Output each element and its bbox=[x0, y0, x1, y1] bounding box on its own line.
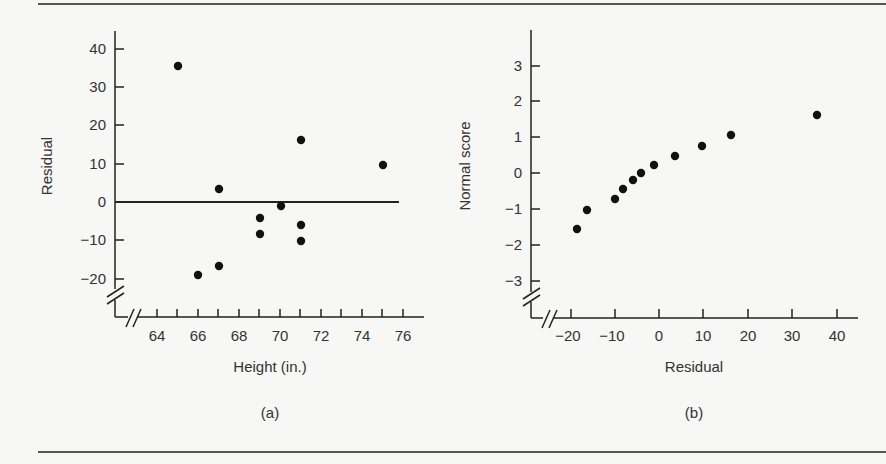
x-tick-label: 68 bbox=[231, 327, 248, 344]
x-tick-label: 20 bbox=[740, 327, 757, 344]
figure: 40 30 20 10 0 −10 −20 64 66 68 70 72 74 … bbox=[0, 0, 886, 464]
x-tick-label: 40 bbox=[829, 327, 846, 344]
x-tick-label: 70 bbox=[272, 327, 289, 344]
y-tick-label: 20 bbox=[89, 116, 106, 133]
data-point bbox=[297, 237, 305, 245]
panel-b: 3 2 1 0 −1 −2 −3 −20 −10 0 10 20 30 40 R… bbox=[456, 30, 858, 421]
y-tick-labels-b: 3 2 1 0 −1 −2 −3 bbox=[505, 57, 522, 289]
data-point bbox=[813, 111, 821, 119]
data-point bbox=[297, 221, 305, 229]
x-tick-label: 74 bbox=[354, 327, 371, 344]
y-tick-label: 2 bbox=[514, 92, 522, 109]
x-tick-labels-a: 64 66 68 70 72 74 76 bbox=[149, 327, 412, 344]
data-point bbox=[583, 206, 591, 214]
y-tick-labels-a: 40 30 20 10 0 −10 −20 bbox=[81, 40, 106, 287]
data-point bbox=[194, 271, 202, 279]
data-point bbox=[698, 142, 706, 150]
data-point bbox=[671, 152, 679, 160]
x-axis-b bbox=[531, 309, 858, 328]
data-point bbox=[174, 62, 182, 70]
points-a bbox=[174, 62, 387, 279]
data-point bbox=[215, 262, 223, 270]
data-point bbox=[619, 185, 627, 193]
data-point bbox=[611, 195, 619, 203]
data-point bbox=[650, 161, 658, 169]
x-tick-label: 10 bbox=[695, 327, 712, 344]
y-tick-label: 10 bbox=[89, 155, 106, 172]
y-axis-a bbox=[107, 31, 124, 317]
y-axis-title-a: Residual bbox=[38, 137, 55, 195]
points-b bbox=[573, 111, 821, 233]
data-point bbox=[215, 185, 223, 193]
y-tick-label: −3 bbox=[505, 272, 522, 289]
data-point bbox=[379, 161, 387, 169]
y-tick-label: −1 bbox=[505, 200, 522, 217]
x-tick-label: 0 bbox=[655, 327, 663, 344]
caption-a: (a) bbox=[261, 404, 279, 421]
y-tick-label: 40 bbox=[89, 40, 106, 57]
y-axis-title-b: Normal score bbox=[456, 121, 473, 210]
x-axis-a bbox=[115, 309, 424, 327]
x-tick-label: 64 bbox=[149, 327, 166, 344]
y-tick-label: 3 bbox=[514, 57, 522, 74]
y-tick-label: −20 bbox=[81, 270, 106, 287]
y-tick-label: −10 bbox=[81, 231, 106, 248]
x-tick-label: 76 bbox=[395, 327, 412, 344]
y-tick-label: 1 bbox=[514, 128, 522, 145]
x-tick-labels-b: −20 −10 0 10 20 30 40 bbox=[555, 327, 845, 344]
data-point bbox=[256, 230, 264, 238]
data-point bbox=[629, 176, 637, 184]
caption-b: (b) bbox=[685, 404, 703, 421]
x-tick-label: 72 bbox=[313, 327, 330, 344]
x-tick-label: −10 bbox=[599, 327, 624, 344]
y-tick-label: 30 bbox=[89, 78, 106, 95]
data-point bbox=[256, 214, 264, 222]
x-tick-label: −20 bbox=[555, 327, 580, 344]
y-tick-label: −2 bbox=[505, 236, 522, 253]
data-point bbox=[637, 169, 645, 177]
x-tick-label: 30 bbox=[784, 327, 801, 344]
data-point bbox=[727, 131, 735, 139]
data-point bbox=[297, 136, 305, 144]
x-axis-title-b: Residual bbox=[665, 358, 723, 375]
x-tick-label: 66 bbox=[190, 327, 207, 344]
data-point bbox=[277, 202, 285, 210]
data-point bbox=[573, 225, 581, 233]
y-axis-b bbox=[523, 30, 540, 318]
x-axis-title-a: Height (in.) bbox=[233, 358, 306, 375]
panel-a: 40 30 20 10 0 −10 −20 64 66 68 70 72 74 … bbox=[38, 31, 424, 421]
y-tick-label: 0 bbox=[514, 164, 522, 181]
y-tick-label: 0 bbox=[98, 193, 106, 210]
